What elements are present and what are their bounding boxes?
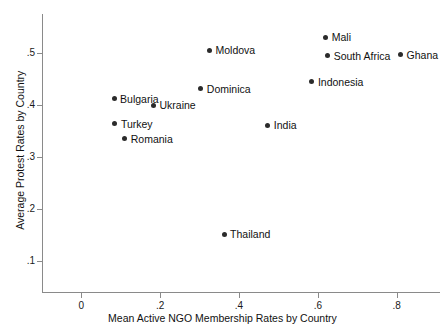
x-axis-ticks: 0.2.4.6.8 xyxy=(42,293,440,313)
y-tick-mark xyxy=(37,209,42,210)
data-point-marker xyxy=(207,48,212,53)
data-point-label: Ukraine xyxy=(160,100,196,111)
y-tick-mark xyxy=(37,53,42,54)
x-tick-mark xyxy=(239,293,240,298)
x-tick-label: .8 xyxy=(392,301,400,311)
y-tick-label: .4 xyxy=(27,100,35,110)
plot-area: .1.2.3.4.5 MaliMoldovaSouth AfricaGhanaI… xyxy=(42,14,440,292)
data-point-marker xyxy=(151,103,156,108)
x-tick-label: .4 xyxy=(235,301,243,311)
data-point-marker xyxy=(198,86,203,91)
y-tick-mark xyxy=(37,105,42,106)
y-tick-label: .3 xyxy=(27,152,35,162)
y-tick-label: .5 xyxy=(27,48,35,58)
x-tick-label: 0 xyxy=(79,301,85,311)
y-tick-label: .2 xyxy=(27,204,35,214)
data-point-marker xyxy=(323,35,328,40)
data-point-marker xyxy=(309,79,314,84)
x-tick-mark xyxy=(397,293,398,298)
data-point-marker xyxy=(122,136,127,141)
y-tick-label: .1 xyxy=(27,256,35,266)
data-point-marker xyxy=(112,121,117,126)
data-point-marker xyxy=(222,232,227,237)
scatter-plot-figure: .1.2.3.4.5 MaliMoldovaSouth AfricaGhanaI… xyxy=(0,0,445,334)
x-tick-mark xyxy=(318,293,319,298)
y-tick-mark xyxy=(37,157,42,158)
data-point-label: Moldova xyxy=(215,45,255,56)
data-point-label: Ghana xyxy=(407,49,439,60)
x-tick-label: .2 xyxy=(156,301,164,311)
data-point-label: Indonesia xyxy=(318,76,364,87)
x-axis-title: Mean Active NGO Membership Rates by Coun… xyxy=(0,313,445,324)
x-tick-mark xyxy=(81,293,82,298)
y-tick-mark xyxy=(37,261,42,262)
x-tick-label: .6 xyxy=(314,301,322,311)
data-point-marker xyxy=(398,52,403,57)
data-point-label: South Africa xyxy=(334,50,391,61)
data-point-label: Mali xyxy=(332,32,351,43)
data-point-marker xyxy=(112,96,117,101)
data-point-label: Dominica xyxy=(207,84,251,95)
data-point-label: Thailand xyxy=(230,229,270,240)
data-point-label: Turkey xyxy=(121,118,153,129)
y-axis-title: Average Protest Rates by Country xyxy=(15,25,26,275)
data-point-label: India xyxy=(274,120,297,131)
data-point-label: Romania xyxy=(131,133,173,144)
x-tick-mark xyxy=(160,293,161,298)
data-point-marker xyxy=(265,123,270,128)
data-point-marker xyxy=(325,53,330,58)
